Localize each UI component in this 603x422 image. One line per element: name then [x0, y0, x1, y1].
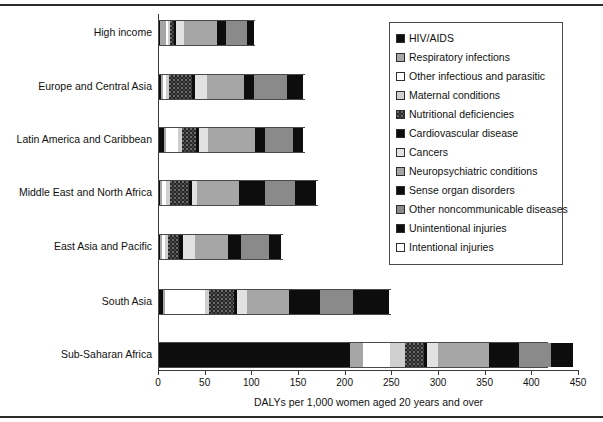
legend-item-label: Neuropsychiatric conditions — [409, 166, 537, 177]
dark-gray-swatch — [396, 205, 405, 214]
bar-segment-othernoncom — [254, 75, 287, 99]
x-axis-tick — [391, 370, 392, 375]
bar-segment-othernoncom — [265, 181, 295, 205]
x-axis-tick-label: 100 — [243, 377, 260, 388]
x-axis-tick — [531, 370, 532, 375]
bar-segment-neuro — [438, 343, 489, 367]
bar-segment-maternal — [390, 343, 406, 367]
legend-item-label: Respiratory infections — [409, 52, 510, 63]
bar-segment-unintent — [269, 235, 281, 259]
bar-segment-nutrition — [168, 235, 179, 259]
bar-segment-unintent — [287, 75, 303, 99]
medium-gray-swatch — [396, 167, 405, 176]
solid-black-swatch — [396, 129, 405, 138]
bar-segment-othernoncom — [320, 290, 353, 314]
legend-item: Respiratory infections — [396, 48, 556, 67]
legend-item: Sense organ disorders — [396, 181, 556, 200]
stacked-bar — [158, 342, 548, 368]
y-axis-category: High income — [0, 26, 152, 40]
y-axis-category: Middle East and North Africa — [0, 186, 152, 200]
legend-item-label: Cancers — [409, 147, 448, 158]
bar-segment-sense — [489, 343, 519, 367]
x-axis-tick-label: 0 — [155, 377, 161, 388]
stacked-bar — [158, 180, 318, 206]
y-axis-category: Latin America and Caribbean — [0, 133, 152, 147]
bar-segment-intent — [573, 343, 577, 367]
solid-black-swatch — [396, 224, 405, 233]
y-axis-category-label: East Asia and Pacific — [54, 240, 152, 252]
bar-segment-cancers — [176, 21, 184, 45]
stacked-bar — [158, 20, 255, 46]
legend-item: HIV/AIDS — [396, 29, 556, 48]
stacked-bar — [158, 234, 283, 260]
x-axis-tick-label: 350 — [476, 377, 493, 388]
speckled-dark-swatch — [396, 110, 405, 119]
legend-item-label: Unintentional injuries — [409, 223, 506, 234]
bar-segment-neuro — [247, 290, 289, 314]
figure-bottom-rule — [0, 416, 603, 418]
bar-segment-intent — [316, 181, 319, 205]
bar-segment-nutrition — [170, 181, 189, 205]
bar-segment-intent — [303, 128, 306, 152]
bar-segment-nutrition — [405, 343, 424, 367]
bar-segment-nutrition — [209, 290, 233, 314]
x-axis-tick-label: 50 — [199, 377, 210, 388]
legend-item: Cardiovascular disease — [396, 124, 556, 143]
legend-item-label: HIV/AIDS — [409, 33, 454, 44]
x-axis-line — [158, 370, 579, 371]
legend-item: Unintentional injuries — [396, 219, 556, 238]
chart-figure: High incomeEurope and Central AsiaLatin … — [0, 0, 603, 422]
legend: HIV/AIDSRespiratory infectionsOther infe… — [389, 22, 563, 265]
legend-item-label: Cardiovascular disease — [409, 128, 518, 139]
bar-segment-neuro — [208, 128, 255, 152]
white-swatch — [396, 72, 405, 81]
x-axis-tick-label: 400 — [523, 377, 540, 388]
bar-segment-unintent — [247, 21, 254, 45]
y-axis-category-label: Europe and Central Asia — [38, 80, 152, 92]
bar-segment-unintent — [551, 343, 573, 367]
x-axis-tick — [298, 370, 299, 375]
legend-item-label: Other noncommunicable diseases — [409, 204, 568, 215]
legend-item: Cancers — [396, 143, 556, 162]
x-axis-tick — [485, 370, 486, 375]
bar-segment-sense — [239, 181, 265, 205]
x-axis-title: DALYs per 1,000 women aged 20 years and … — [158, 396, 579, 408]
bar-segment-cancers — [427, 343, 438, 367]
y-axis-category: East Asia and Pacific — [0, 240, 152, 254]
y-axis-category-label: Latin America and Caribbean — [17, 133, 152, 145]
bar-segment-intent — [303, 75, 306, 99]
x-axis-tick — [158, 370, 159, 375]
y-axis-category-label: High income — [94, 26, 152, 38]
bar-segment-neuro — [184, 21, 217, 45]
x-axis-tick-label: 250 — [383, 377, 400, 388]
legend-item: Neuropsychiatric conditions — [396, 162, 556, 181]
x-axis-tick — [251, 370, 252, 375]
bar-segment-cancers — [195, 75, 206, 99]
figure-top-rule — [0, 4, 603, 6]
stacked-bar — [158, 127, 305, 153]
x-axis-tick — [438, 370, 439, 375]
bar-segment-otherinf — [363, 343, 389, 367]
bar-segment-sense — [255, 128, 265, 152]
very-light-swatch — [396, 148, 405, 157]
bar-segment-neuro — [197, 181, 239, 205]
legend-item-label: Sense organ disorders — [409, 185, 515, 196]
light-gray-swatch — [396, 91, 405, 100]
bar-segment-nutrition — [182, 128, 196, 152]
bar-segment-hiv — [159, 343, 350, 367]
legend-item: Intentional injuries — [396, 238, 556, 257]
legend-item-label: Maternal conditions — [409, 90, 500, 101]
legend-item: Maternal conditions — [396, 86, 556, 105]
y-axis-category-label: Middle East and North Africa — [19, 186, 152, 198]
bar-segment-otherinf — [165, 290, 205, 314]
x-axis-tick-label: 200 — [336, 377, 353, 388]
bar-segment-otherinf — [166, 128, 178, 152]
legend-item: Nutritional deficiencies — [396, 105, 556, 124]
white-swatch — [396, 243, 405, 252]
bar-segment-sense — [244, 75, 254, 99]
bar-segment-cancers — [199, 128, 208, 152]
y-axis-category: Europe and Central Asia — [0, 80, 152, 94]
bar-segment-othernoncom — [226, 21, 247, 45]
bar-segment-othernoncom — [519, 343, 551, 367]
legend-item: Other noncommunicable diseases — [396, 200, 556, 219]
